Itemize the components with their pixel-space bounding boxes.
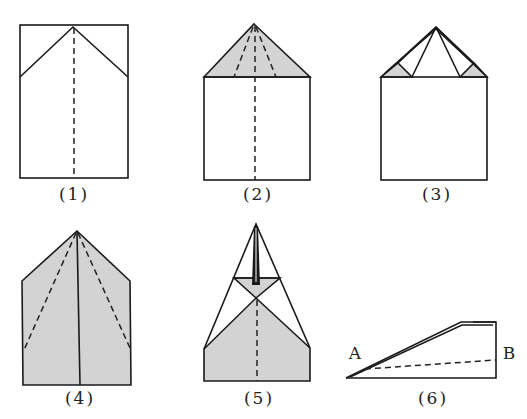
wing-top-edge (346, 322, 496, 378)
folding-diagram (0, 0, 527, 419)
wing-inner-edge (350, 325, 493, 377)
step-2-figure (204, 24, 310, 180)
right-double-edge (436, 29, 483, 73)
step-4-caption: (4) (65, 388, 95, 408)
step-6-caption: (6) (418, 388, 448, 408)
left-double-edge (385, 29, 436, 73)
step-1-caption: (1) (59, 184, 89, 204)
folded-top-triangle (204, 24, 310, 77)
step-5-caption: (5) (244, 388, 274, 408)
step-2-caption: (2) (243, 184, 273, 204)
left-corner-flap (381, 63, 412, 77)
point-B-label: B (503, 343, 516, 363)
step-4-figure (22, 231, 131, 385)
step-1-figure (20, 25, 128, 178)
step-6-figure (346, 322, 496, 378)
paper-body (381, 77, 487, 180)
folded-paper (22, 231, 131, 385)
step-5-figure (204, 224, 310, 381)
airplane-outline (346, 322, 496, 378)
paper-body (204, 77, 310, 180)
step-3-caption: (3) (422, 184, 452, 204)
step-3-figure (381, 27, 487, 180)
point-A-label: A (349, 343, 361, 363)
